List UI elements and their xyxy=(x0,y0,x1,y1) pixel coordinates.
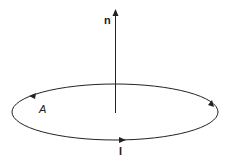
area-label: A xyxy=(39,104,46,115)
current-label: I xyxy=(119,146,122,157)
loop-arrow-left xyxy=(29,93,36,99)
normal-vector-label: n xyxy=(104,15,111,26)
loop-arrow-bottom xyxy=(119,137,126,143)
normal-vector-arrowhead xyxy=(113,9,119,16)
current-loop-diagram xyxy=(0,0,228,164)
